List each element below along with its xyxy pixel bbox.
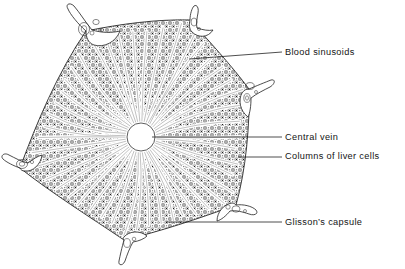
central-vein <box>127 123 155 151</box>
portal-triad-top-left <box>67 4 120 46</box>
callout-label-blood-sinusoids: Blood sinusoids <box>285 48 355 57</box>
liver-lobule-diagram <box>0 0 405 269</box>
portal-triad-top-right <box>189 5 213 36</box>
callout-label-central-vein: Central vein <box>285 133 338 142</box>
callout-label-glissons-capsule: Glisson’s capsule <box>285 218 362 227</box>
liver-lobule-figure: Blood sinusoids Central vein Columns of … <box>0 0 405 269</box>
callout-label-columns-of-liver-cells: Columns of liver cells <box>285 152 380 161</box>
